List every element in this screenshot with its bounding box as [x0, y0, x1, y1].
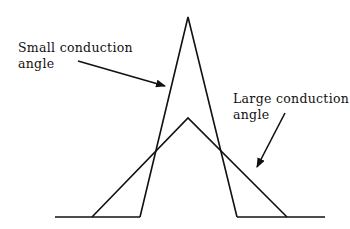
small-angle-arrow-icon	[78, 61, 165, 86]
small-angle-label-line2: angle	[18, 56, 54, 71]
large-angle-pulse	[92, 118, 287, 217]
small-angle-pulse	[140, 17, 237, 217]
large-angle-label-line1: Large conduction	[233, 91, 349, 106]
conduction-angle-diagram: Small conduction angle Large conduction …	[0, 0, 350, 229]
small-angle-label-line1: Small conduction	[18, 40, 133, 55]
large-angle-label-line2: angle	[233, 107, 269, 122]
